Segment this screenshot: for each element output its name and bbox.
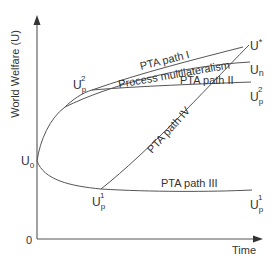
y-axis-label: World Welfare (U) [9, 30, 21, 118]
pta-path-4-label: PTA path IV [145, 104, 193, 156]
un-label: Un [250, 63, 264, 78]
up2-end-sup: 2 [258, 85, 263, 94]
y-axis-arrow-icon [34, 15, 41, 25]
pta-path-2-label: PTA path II [180, 74, 234, 86]
x-axis-label: Time [232, 244, 256, 256]
up1-end-sup: 1 [258, 193, 263, 202]
axes [34, 15, 264, 243]
up1-min-sup: 1 [100, 191, 105, 200]
descent-curve [37, 161, 101, 189]
welfare-paths-diagram: World Welfare (U) 0 Time PTA path I Proc… [0, 0, 278, 268]
pta-path-3-label: PTA path III [161, 177, 218, 189]
origin-label: 0 [26, 234, 32, 246]
pta-path-3-curve [101, 189, 252, 191]
common-trunk-curve [37, 107, 65, 161]
u0-label: U0 [21, 154, 35, 170]
x-axis-arrow-icon [253, 236, 263, 243]
ustar-label: U* [250, 37, 263, 53]
up2-branch-sup: 2 [81, 74, 86, 83]
